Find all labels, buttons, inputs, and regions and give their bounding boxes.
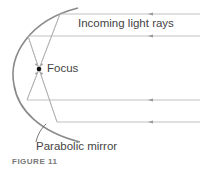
focus-point bbox=[37, 67, 42, 72]
parabolic-mirror-diagram: Incoming light rays Focus Parabolic mirr… bbox=[0, 0, 214, 171]
focus-label: Focus bbox=[47, 62, 78, 74]
figure-caption: FIGURE 11 bbox=[12, 157, 57, 166]
incoming-rays-label: Incoming light rays bbox=[78, 17, 174, 29]
mirror-label: Parabolic mirror bbox=[36, 140, 117, 152]
